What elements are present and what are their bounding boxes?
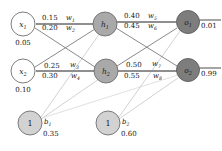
weight-w1-symbol: w1: [66, 14, 75, 23]
bias-2-value: 0.60: [121, 130, 137, 138]
neural-network-diagram: x1 0.05 x2 0.10 h1 h2 o1 0.01 o2 0.99 1: [0, 0, 222, 151]
node-o2-value: 0.99: [201, 70, 217, 78]
weight-w6-symbol: w6: [148, 22, 157, 31]
node-bias-1-label: 1: [27, 119, 32, 128]
weight-w7-value: 0.50: [126, 61, 142, 69]
network-canvas: x1 0.05 x2 0.10 h1 h2 o1 0.01 o2 0.99 1: [0, 0, 222, 151]
node-bias-2-label: 1: [105, 119, 110, 128]
node-x1-value: 0.05: [15, 39, 31, 47]
weight-w5-symbol: w5: [148, 12, 157, 21]
weight-w4-value: 0.30: [42, 72, 58, 80]
weight-w5-value: 0.40: [124, 12, 140, 20]
weight-w8-symbol: w8: [153, 72, 162, 81]
edge-b1-h2: [41, 79, 99, 119]
weight-w8-value: 0.55: [124, 72, 140, 80]
bias-1-symbol: b1: [44, 118, 51, 127]
weight-w7-symbol: w7: [152, 60, 161, 69]
weight-w3-symbol: w3: [70, 61, 79, 70]
weight-w2-symbol: w2: [66, 24, 75, 33]
node-o1-value: 0.01: [201, 22, 217, 30]
weight-w1-value: 0.15: [42, 14, 58, 22]
bias-1-value: 0.35: [43, 130, 59, 138]
bias-2-symbol: b2: [122, 118, 129, 127]
weight-w4-symbol: w4: [71, 72, 80, 81]
weight-w6-value: 0.45: [124, 22, 140, 30]
weight-w3-value: 0.25: [44, 62, 60, 70]
weight-w2-value: 0.20: [42, 24, 58, 32]
node-x2-value: 0.10: [15, 86, 31, 94]
